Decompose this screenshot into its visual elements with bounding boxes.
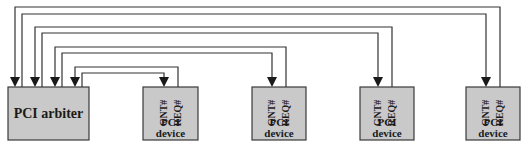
arrow-head-req-4 bbox=[10, 77, 20, 87]
gnt-wire-device-1 bbox=[82, 73, 164, 87]
arrow-head-req-3 bbox=[30, 77, 40, 87]
arrow-head-req-2 bbox=[50, 77, 60, 87]
arrow-head-gnt-1 bbox=[159, 77, 169, 87]
device-label-line2: device bbox=[156, 127, 185, 139]
device-label-line2: device bbox=[478, 127, 507, 139]
pci-device-4: GNT# REQ# PCI device bbox=[466, 87, 520, 140]
pci-device-3: GNT# REQ# PCI device bbox=[360, 87, 414, 140]
arrow-head-gnt-4 bbox=[481, 77, 491, 87]
arrow-head-req-1 bbox=[70, 77, 80, 87]
pci-device-1: GNT# REQ# PCI device bbox=[143, 87, 198, 140]
gnt-wire-device-2 bbox=[62, 53, 272, 87]
arrow-head-gnt-3 bbox=[373, 77, 383, 87]
device-label-line2: device bbox=[372, 127, 401, 139]
device-label-line2: device bbox=[264, 127, 293, 139]
pci-device-2: GNT# REQ# PCI device bbox=[252, 87, 306, 140]
req-wire-device-3 bbox=[35, 27, 392, 87]
arrow-head-gnt-2 bbox=[267, 77, 277, 87]
pci-arbiter-box: PCI arbiter bbox=[8, 87, 89, 140]
arbiter-label: PCI arbiter bbox=[14, 106, 84, 121]
gnt-wire-device-4 bbox=[22, 14, 486, 87]
pci-arbitration-diagram: PCI arbiter GNT# REQ# PCI device GNT# RE… bbox=[0, 0, 530, 148]
gnt-wire-device-3 bbox=[42, 33, 378, 87]
